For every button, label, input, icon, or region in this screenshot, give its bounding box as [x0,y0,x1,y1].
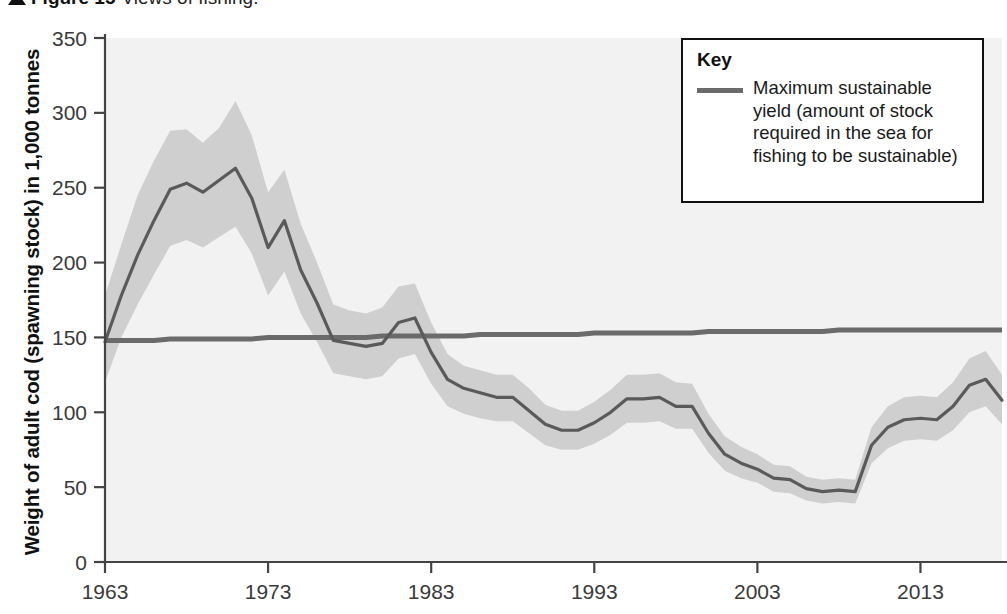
x-tick-label: 2013 [897,580,944,603]
x-tick-label: 1993 [571,580,618,603]
y-tick-label: 300 [52,101,87,124]
legend-entry-label: Maximum sustainable yield (amount of sto… [753,77,970,167]
x-tick-label: 1983 [408,580,455,603]
chart-legend: Key Maximum sustainable yield (amount of… [681,38,984,203]
x-tick-label: 1973 [245,580,292,603]
figure-container: Figure 15Views of fishing. Weight of adu… [0,0,1007,614]
y-tick-label: 0 [75,551,87,574]
x-tick-label: 2003 [734,580,781,603]
y-tick-label: 50 [64,476,87,499]
legend-entry: Maximum sustainable yield (amount of sto… [697,77,970,167]
y-tick-label: 200 [52,251,87,274]
x-axis-ticks: 196319731983199320032013 [82,562,944,603]
x-tick-label: 1963 [82,580,129,603]
y-tick-label: 350 [52,27,87,50]
y-tick-label: 250 [52,176,87,199]
y-tick-label: 100 [52,401,87,424]
y-axis-ticks: 050100150200250300350 [52,27,105,574]
legend-swatch-icon [697,88,743,93]
legend-title: Key [697,49,970,71]
y-tick-label: 150 [52,326,87,349]
